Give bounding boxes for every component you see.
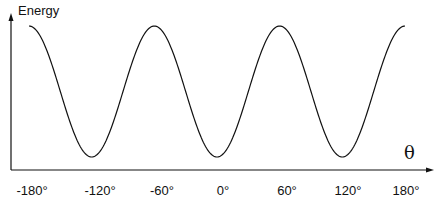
x-tick-label: 0°	[217, 183, 229, 198]
y-axis-label: Energy	[18, 3, 59, 18]
x-axis-label: θ	[404, 142, 415, 163]
x-tick-label: 120°	[335, 183, 362, 198]
energy-curve	[29, 26, 405, 157]
x-axis-arrow-icon	[426, 168, 434, 173]
energy-chart	[0, 0, 441, 204]
y-axis	[9, 13, 14, 170]
y-axis-arrow-icon	[9, 13, 14, 21]
x-axis	[11, 168, 434, 173]
x-tick-label: -60°	[150, 183, 174, 198]
x-tick-label: 60°	[277, 183, 297, 198]
x-tick-label: 180°	[393, 183, 420, 198]
x-tick-label: -120°	[84, 183, 115, 198]
x-tick-label: -180°	[16, 183, 47, 198]
